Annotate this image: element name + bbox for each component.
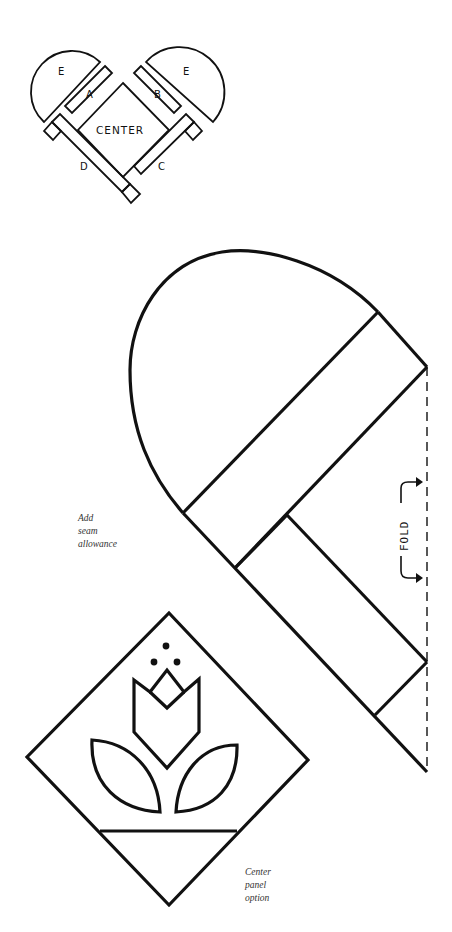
- pattern-e-band-line: [183, 312, 378, 513]
- center-note-line-1: Center: [245, 866, 271, 879]
- label-e-right: E: [183, 66, 190, 77]
- pattern-band-outer-edge: [378, 312, 427, 367]
- pattern-piece-e-arc: [130, 251, 378, 513]
- half-heart-pattern: FOLD: [130, 251, 427, 772]
- tulip-dot-top: [163, 643, 170, 650]
- center-note-line-2: panel: [245, 879, 271, 892]
- tulip-inner-petal: [150, 692, 184, 708]
- center-panel-tulip: [27, 613, 308, 905]
- label-d: D: [80, 161, 88, 172]
- pattern-lower-strip-joint: [235, 515, 287, 568]
- center-note-line-3: option: [245, 892, 271, 905]
- center-panel-note: Center panel option: [245, 866, 271, 905]
- seam-note-line-1: Add: [78, 512, 117, 525]
- tulip-leaf-right: [176, 745, 237, 812]
- center-panel-diamond: [27, 613, 308, 905]
- label-a: A: [86, 89, 93, 100]
- seam-allowance-note: Add seam allowance: [78, 512, 117, 551]
- tulip-dot-left: [151, 659, 158, 666]
- piece-d-bottom-square: [122, 184, 140, 203]
- tulip-dot-right: [174, 659, 181, 666]
- piece-e-left: [31, 51, 100, 122]
- label-center: CENTER: [96, 124, 144, 136]
- piece-c-corner-square: [185, 122, 202, 140]
- quilt-pattern-sheet: E E A B C D CENTER FOLD: [0, 0, 452, 932]
- label-e-left: E: [58, 66, 65, 77]
- tulip-cup: [134, 670, 199, 768]
- piece-d-corner-square: [44, 122, 61, 140]
- fold-arrow-down-head-icon: [416, 573, 423, 583]
- piece-e-right: [146, 47, 224, 122]
- label-c: C: [158, 161, 165, 172]
- pattern-lower-strip-end: [375, 662, 427, 715]
- seam-note-line-3: allowance: [78, 538, 117, 551]
- pattern-outer-edge: [183, 513, 427, 772]
- seam-note-line-2: seam: [78, 525, 117, 538]
- heart-assembly-diagram: E E A B C D CENTER: [31, 47, 224, 203]
- fold-arrow-up-head-icon: [416, 477, 423, 487]
- label-b: B: [154, 89, 161, 100]
- fold-label: FOLD: [398, 521, 411, 552]
